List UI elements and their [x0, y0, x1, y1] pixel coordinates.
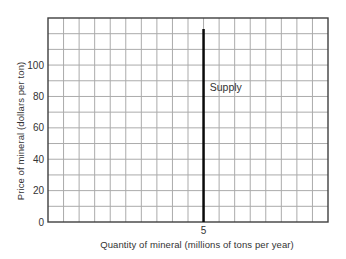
y-tick-label: 0 — [38, 217, 44, 228]
supply-demand-figure: Supply0204060801005 Price of mineral (do… — [0, 0, 346, 259]
y-tick-label: 80 — [33, 91, 45, 102]
chart-svg: Supply0204060801005 — [0, 0, 346, 259]
y-axis-label: Price of mineral (dollars per ton) — [15, 62, 26, 201]
y-tick-label: 60 — [33, 122, 45, 133]
supply-label: Supply — [210, 81, 243, 93]
x-tick-label: 5 — [201, 225, 207, 236]
y-tick-label: 20 — [33, 185, 45, 196]
x-axis-label: Quantity of mineral (millions of tons pe… — [100, 239, 294, 250]
y-tick-label: 100 — [27, 60, 44, 71]
y-tick-label: 40 — [33, 154, 45, 165]
